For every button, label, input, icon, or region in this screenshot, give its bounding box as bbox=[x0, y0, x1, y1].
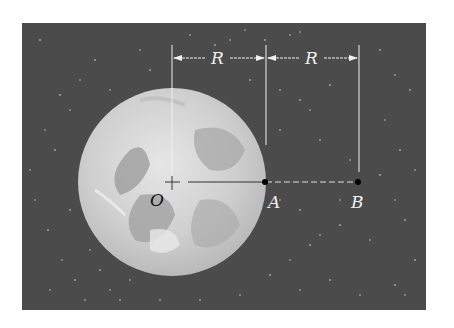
point-b bbox=[355, 179, 361, 185]
moon-diagram: R R O A B bbox=[0, 0, 454, 328]
label-r-1: R bbox=[210, 48, 224, 68]
label-r-2: R bbox=[304, 48, 318, 68]
label-a: A bbox=[266, 192, 280, 212]
label-o: O bbox=[150, 190, 164, 210]
label-b: B bbox=[350, 192, 364, 212]
point-a bbox=[262, 179, 268, 185]
